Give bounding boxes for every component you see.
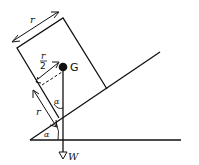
half-width-numerator: r	[41, 51, 46, 61]
weight-label: W	[68, 151, 79, 162]
incline-line	[30, 52, 160, 140]
width-dimension-arrow	[12, 12, 59, 42]
width-label: r	[30, 14, 36, 25]
weight-arrowhead	[59, 152, 67, 159]
angle-label-bottom: α	[44, 130, 50, 139]
centre-of-mass-label: G	[70, 61, 79, 74]
angle-label-top: α	[54, 97, 60, 106]
lower-distance-label: r	[36, 106, 42, 117]
diagram-canvas: r r 2 G W r α α	[0, 0, 199, 165]
half-width-denominator: 2	[40, 61, 46, 71]
